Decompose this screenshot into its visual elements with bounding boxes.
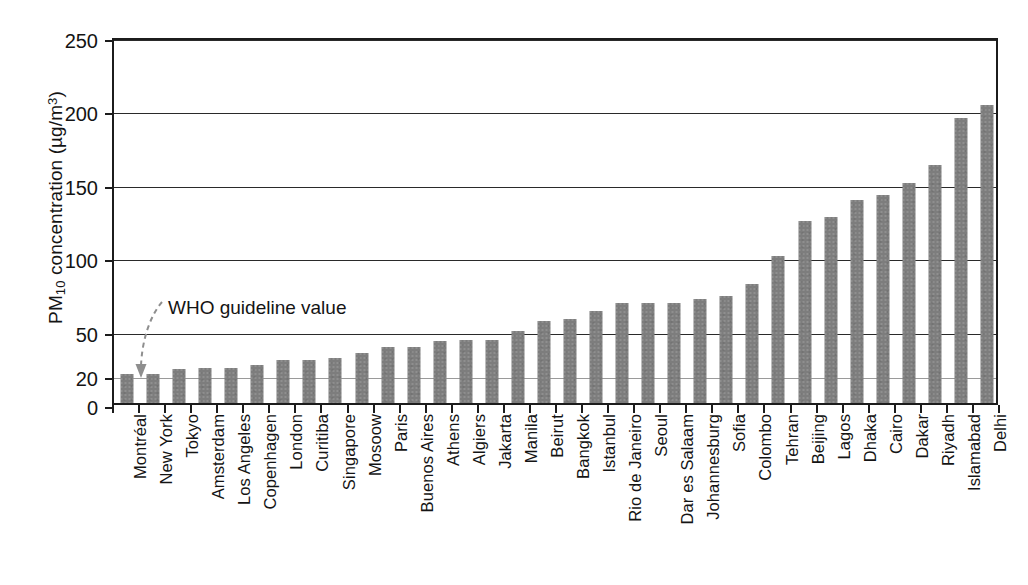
bar[interactable] — [876, 195, 889, 403]
y-tick-200: 200 — [105, 113, 114, 115]
bar-slot — [635, 40, 661, 403]
bar[interactable] — [251, 365, 264, 403]
bar-slot — [375, 40, 401, 403]
x-tick — [138, 405, 140, 413]
x-tick — [894, 405, 896, 413]
bar-slot — [427, 40, 453, 403]
x-tick-label: London — [287, 414, 306, 470]
x-tick-label: Paris — [392, 414, 411, 452]
x-tick — [268, 405, 270, 413]
x-tick-label: Islamabad — [965, 414, 984, 491]
x-tick-label: Delhi — [991, 414, 1010, 452]
x-tick-label: Beijing — [809, 414, 828, 464]
bar[interactable] — [954, 118, 967, 403]
x-tick — [294, 405, 296, 413]
y-tick-label: 0 — [87, 397, 98, 420]
x-tick — [164, 405, 166, 413]
x-tick-label: Montréal — [131, 414, 150, 479]
x-axis-labels: MontréalNew YorkTokyoAmsterdamLos Angele… — [112, 414, 998, 579]
bar[interactable] — [459, 340, 472, 403]
x-tick — [868, 405, 870, 413]
who-guideline-annotation: WHO guideline value — [168, 297, 346, 319]
bar-slot — [531, 40, 557, 403]
y-tick-label: 50 — [76, 324, 98, 347]
x-tick — [607, 405, 609, 413]
bar-slot — [505, 40, 531, 403]
bar[interactable] — [668, 303, 681, 403]
bar-slot — [479, 40, 505, 403]
bar-slot — [557, 40, 583, 403]
bar[interactable] — [902, 183, 915, 403]
x-tick-label: Dakar — [913, 414, 932, 459]
bar-slot — [870, 40, 896, 403]
y-tick-label: 20 — [76, 368, 98, 391]
bar-slot — [296, 40, 322, 403]
bar[interactable] — [355, 353, 368, 403]
bar-slot — [192, 40, 218, 403]
bar[interactable] — [433, 341, 446, 403]
bar[interactable] — [798, 221, 811, 403]
bar[interactable] — [225, 368, 238, 403]
bar[interactable] — [381, 347, 394, 403]
x-tick-label: Los Angeles — [235, 414, 254, 505]
bar[interactable] — [564, 319, 577, 403]
bar-slot — [792, 40, 818, 403]
x-tick — [112, 405, 114, 413]
x-tick — [425, 405, 427, 413]
x-tick-label: New York — [157, 414, 176, 485]
bar[interactable] — [694, 299, 707, 403]
bar[interactable] — [772, 256, 785, 403]
x-tick-label: Curitiba — [313, 414, 332, 472]
x-tick-label: Riyadh — [939, 414, 958, 466]
y-tick-100: 100 — [105, 260, 114, 262]
x-tick — [190, 405, 192, 413]
bar-slot — [713, 40, 739, 403]
x-tick — [972, 405, 974, 413]
x-tick — [763, 405, 765, 413]
bar[interactable] — [850, 200, 863, 403]
x-tick — [685, 405, 687, 413]
bar-slot — [453, 40, 479, 403]
bar[interactable] — [329, 358, 342, 404]
bar[interactable] — [303, 360, 316, 403]
bar[interactable] — [720, 296, 733, 403]
bar-slot — [974, 40, 1000, 403]
plot-area: 02050100150200250 — [112, 38, 998, 405]
y-tick-250: 250 — [105, 40, 114, 42]
bar-slot — [270, 40, 296, 403]
bar[interactable] — [590, 311, 603, 403]
bar-slot — [948, 40, 974, 403]
x-tick-label: Colombo — [756, 414, 775, 481]
bar[interactable] — [980, 105, 993, 403]
bar[interactable] — [928, 165, 941, 403]
bar[interactable] — [277, 360, 290, 403]
y-axis-title-subscript: 10 — [53, 281, 68, 296]
bar-slot — [687, 40, 713, 403]
x-tick-label: Cairo — [887, 414, 906, 454]
bar[interactable] — [485, 340, 498, 403]
y-axis-title-middle: concentration (µg/m — [45, 105, 66, 281]
x-tick — [477, 405, 479, 413]
bar[interactable] — [511, 331, 524, 403]
bar[interactable] — [642, 303, 655, 403]
bar[interactable] — [199, 368, 212, 403]
x-axis-ticks — [112, 405, 998, 413]
y-tick-20: 20 — [105, 378, 114, 380]
bar-slot — [322, 40, 348, 403]
x-tick — [633, 405, 635, 413]
bar-slot — [896, 40, 922, 403]
x-tick-label: Sofia — [730, 414, 749, 452]
bar[interactable] — [407, 347, 420, 403]
bar[interactable] — [824, 217, 837, 403]
x-tick-label: Beirut — [548, 414, 567, 458]
bar[interactable] — [537, 321, 550, 403]
bar[interactable] — [616, 303, 629, 403]
bar-slot — [765, 40, 791, 403]
y-tick-50: 50 — [105, 334, 114, 336]
x-tick-label: Buenos Aires — [418, 414, 437, 512]
bar-slot — [609, 40, 635, 403]
bar-slot — [818, 40, 844, 403]
bar[interactable] — [746, 284, 759, 403]
x-tick-label: Copenhagen — [261, 414, 280, 510]
bar[interactable] — [173, 369, 186, 403]
